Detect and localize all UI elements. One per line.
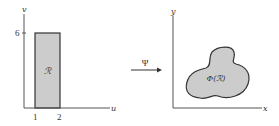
x-tick-label-1: 1 <box>33 112 38 122</box>
u-axis-label: u <box>111 104 116 113</box>
transformation-diagram: v u 6 1 2 ℛ Ψ y x Φ(ℛ) <box>0 0 279 126</box>
right-plot: y x Φ(ℛ) <box>170 7 268 113</box>
left-plot: v u 6 1 2 ℛ <box>15 5 116 122</box>
x-axis-label: x <box>263 104 268 113</box>
arrow-head-icon <box>157 68 162 73</box>
x-tick-label-2: 2 <box>57 112 62 122</box>
image-region <box>186 47 249 98</box>
mapping-arrow: Ψ <box>131 58 162 73</box>
y-tick-label: 6 <box>15 28 20 38</box>
diagram-canvas: v u 6 1 2 ℛ Ψ y x Φ(ℛ) <box>0 0 279 126</box>
image-region-label: Φ(ℛ) <box>207 74 226 83</box>
v-axis-label: v <box>22 5 27 14</box>
region-label: ℛ <box>44 66 52 76</box>
y-axis-label: y <box>170 7 176 16</box>
mapping-label: Ψ <box>142 58 149 68</box>
